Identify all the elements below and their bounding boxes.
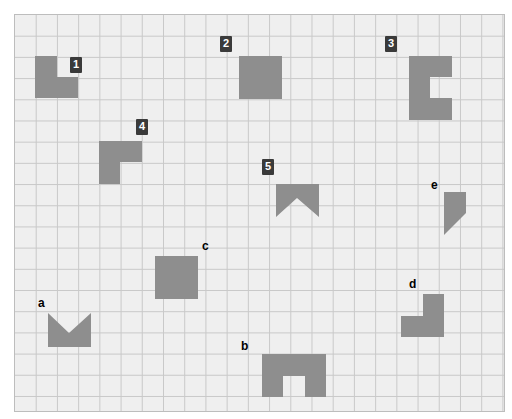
shape-b-label: b	[241, 340, 248, 352]
shape-3[interactable]	[409, 56, 452, 120]
puzzle-canvas: 12345abcde	[0, 0, 512, 419]
shape-c[interactable]	[155, 256, 198, 299]
shape-1-label: 1	[70, 57, 82, 73]
shape-3-label: 3	[385, 36, 397, 52]
shape-5[interactable]	[276, 184, 319, 217]
shape-d[interactable]	[401, 294, 444, 337]
shape-b[interactable]	[262, 354, 326, 397]
shape-5-label: 5	[262, 159, 274, 175]
shape-e-label: e	[431, 179, 438, 191]
shape-d-label: d	[409, 278, 416, 290]
shape-a[interactable]	[48, 313, 91, 347]
shape-2-label: 2	[220, 36, 232, 52]
shape-c-label: c	[202, 240, 209, 252]
shape-e[interactable]	[444, 192, 466, 235]
shape-4[interactable]	[99, 141, 142, 184]
shape-4-label: 4	[136, 119, 148, 135]
shape-a-label: a	[38, 297, 45, 309]
shape-2[interactable]	[239, 56, 282, 99]
